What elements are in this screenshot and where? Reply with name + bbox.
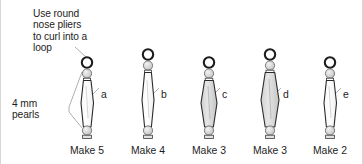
wire-loop-c [204,57,214,67]
crimp-bottom-c [205,135,214,138]
pearl-top-c [204,69,213,78]
pearl-bottom-a [82,126,91,135]
bead-letter-e: e [343,89,349,101]
make-label-e: Make 2 [299,145,361,157]
bead-letter-a: a [101,89,107,101]
bead-letter-c: c [222,89,227,101]
pearl-bottom-e [325,126,334,135]
pearl-top-a [82,69,91,78]
crimp-bottom-d [266,135,275,138]
bead-letter-d: d [283,89,289,101]
wire-loop-d [265,49,275,59]
annotation-round-nose-pliers: Use round nose pliers to curl into a loo… [33,8,125,54]
crimp-bottom-a [83,135,92,138]
pearl-bottom-b [143,126,152,135]
wire-loop-b [143,49,153,59]
wire-loop-e [325,57,335,67]
make-label-d: Make 3 [239,145,301,157]
bead-unit-c [201,57,217,138]
bead-unit-d [261,49,279,138]
pearl-top-e [325,69,334,78]
pearl-bottom-d [265,126,274,135]
make-label-c: Make 3 [178,145,240,157]
pearl-top-d [265,61,274,70]
crimp-bottom-e [326,135,335,138]
wire-loop-a [82,57,92,67]
bead-letter-b: b [161,89,167,101]
make-label-a: Make 5 [56,145,118,157]
bead-unit-b [142,49,154,138]
pearl-top-b [143,61,152,70]
bead-instruction-figure: Use round nose pliers to curl into a loo… [0,0,363,164]
annotation-4mm-pearls: 4 mm pearls [12,98,72,121]
make-label-b: Make 4 [117,145,179,157]
pearl-bottom-c [204,126,213,135]
bead-unit-a [81,57,94,138]
crimp-bottom-b [144,135,153,138]
bead-unit-e [324,57,337,138]
